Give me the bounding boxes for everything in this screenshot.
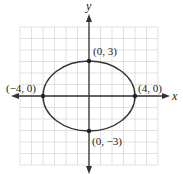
x-axis-right-arrow-icon	[162, 93, 170, 99]
ellipse-graph: x y (0, 3) (4, 0) (0, −3) (−4, 0)	[0, 0, 183, 174]
point-right	[133, 94, 137, 98]
y-axis-label: y	[85, 0, 92, 13]
point-bottom	[87, 129, 91, 133]
x-axis-label: x	[171, 89, 178, 103]
y-axis-down-arrow-icon	[86, 166, 92, 174]
y-axis-up-arrow-icon	[86, 14, 92, 22]
point-label-bottom: (0, −3)	[92, 135, 122, 148]
point-label-top: (0, 3)	[93, 45, 117, 58]
point-left	[41, 94, 45, 98]
point-label-left: (−4, 0)	[6, 82, 36, 95]
point-top	[87, 59, 91, 63]
point-label-right: (4, 0)	[138, 82, 162, 95]
